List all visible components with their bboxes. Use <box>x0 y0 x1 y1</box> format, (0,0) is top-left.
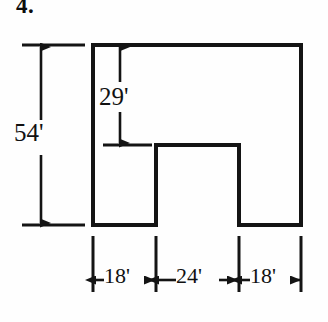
shape-outline <box>93 45 301 225</box>
dimension-label-height-upper: 29' <box>99 84 129 109</box>
dimension-label-width-left: 18' <box>104 265 130 287</box>
dimension-label-width-right: 18' <box>250 265 276 287</box>
dimension-label-height-total: 54' <box>14 120 44 145</box>
figure-page: 4. <box>0 0 328 322</box>
geometry-figure <box>0 0 328 322</box>
dimension-label-width-middle: 24' <box>176 265 202 287</box>
